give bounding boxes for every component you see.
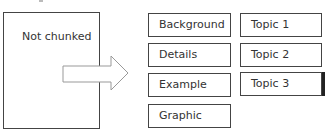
unchunked-label: Not chunked xyxy=(22,30,91,43)
top-edge-artifact xyxy=(39,0,43,2)
chunk-graphic: Graphic xyxy=(148,104,231,128)
chunk-topic-2: Topic 2 xyxy=(240,43,322,67)
chunk-background: Background xyxy=(148,13,231,37)
chunk-topic-1: Topic 1 xyxy=(240,13,322,37)
chunk-example: Example xyxy=(148,73,231,97)
chunk-details: Details xyxy=(148,43,231,67)
chunk-topic-3: Topic 3 xyxy=(240,72,322,96)
right-arrow-icon xyxy=(62,55,130,91)
